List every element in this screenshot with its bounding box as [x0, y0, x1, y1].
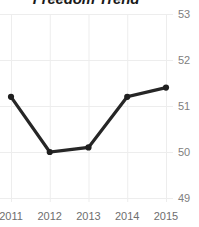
- y-axis-tick-label: 50: [178, 147, 198, 158]
- y-axis-tick-label: 53: [178, 9, 198, 20]
- line-chart-svg: [0, 0, 199, 203]
- data-point-marker: [85, 144, 91, 150]
- data-point-marker: [8, 94, 14, 100]
- plot-area: [0, 0, 199, 203]
- y-axis-tick-label: 49: [178, 193, 198, 204]
- x-axis-tick-label: 2013: [69, 210, 109, 222]
- data-point-marker: [124, 94, 130, 100]
- data-point-marker: [47, 149, 53, 155]
- horizontal-gridlines: [0, 15, 173, 199]
- chart-container: Freedom Trend 5352515049 201120122013201…: [0, 0, 199, 227]
- x-axis-tick-label: 2014: [107, 210, 147, 222]
- x-axis-tick-label: 2012: [30, 210, 70, 222]
- x-axis-tick-label: 2015: [146, 210, 186, 222]
- vertical-gridlines: [12, 14, 167, 202]
- data-point-marker: [163, 85, 169, 91]
- x-axis-tick-label: 2011: [0, 210, 31, 222]
- y-axis-tick-label: 52: [178, 55, 198, 66]
- y-axis-tick-label: 51: [178, 101, 198, 112]
